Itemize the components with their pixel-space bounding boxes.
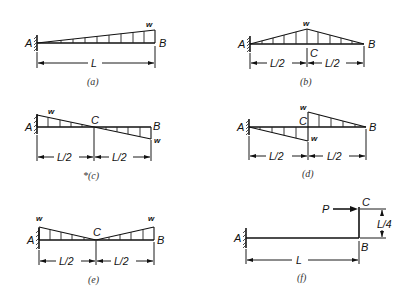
fixed-support-icon: [246, 119, 249, 135]
label-c: C: [362, 196, 370, 208]
label-c: C: [310, 47, 318, 59]
label-a: A: [24, 37, 32, 49]
distributed-load: [37, 30, 155, 43]
label-p: P: [322, 203, 330, 215]
fixed-support-icon: [243, 228, 246, 248]
label-b: B: [369, 121, 376, 133]
distributed-load: [250, 29, 364, 44]
caption: (d): [302, 168, 314, 180]
span-label-left: L/2: [59, 255, 74, 267]
beam-diagrams: A B w L (a): [0, 0, 414, 304]
span-label-right: L/2: [325, 57, 340, 69]
figure-f: P C B A L/4 L (f): [233, 196, 392, 284]
label-a: A: [233, 232, 241, 244]
figure-e: A B C w w L/2 L/2 (e): [26, 214, 164, 286]
dimension-line: [37, 128, 151, 161]
label-a: A: [237, 38, 245, 50]
label-w: w: [146, 20, 153, 29]
caption: (b): [300, 76, 312, 88]
span-label-right: L/2: [327, 150, 342, 162]
label-w-right: w: [148, 214, 155, 223]
span-label-left: L/2: [270, 57, 285, 69]
caption: (a): [87, 76, 99, 88]
label-c: C: [93, 226, 101, 238]
label-w-top: w: [300, 103, 307, 112]
fixed-support-icon: [247, 36, 250, 52]
label-w-bottom: w: [311, 134, 318, 143]
figure-d: A B C w w L/2 L/2 (d): [236, 103, 376, 180]
figure-a: A B w L (a): [24, 20, 166, 88]
arm-label: L/4: [377, 218, 392, 230]
dimension-line: [250, 46, 364, 69]
dimension-line: [246, 241, 359, 264]
label-c: C: [299, 115, 307, 127]
label-w-left: w: [48, 107, 55, 116]
dimension-line: [39, 241, 154, 265]
caption: *(c): [83, 170, 100, 182]
span-label-left: L/2: [57, 151, 72, 163]
fixed-support-icon: [34, 35, 37, 51]
label-w-left: w: [36, 214, 43, 223]
label-c: C: [91, 114, 99, 126]
label-b: B: [368, 38, 375, 50]
span-label-right: L/2: [114, 255, 129, 267]
caption: (e): [88, 274, 100, 286]
caption: (f): [297, 272, 307, 284]
label-b: B: [159, 37, 166, 49]
span-label-right: L/2: [112, 151, 127, 163]
span-label: L: [91, 57, 97, 69]
label-b: B: [361, 241, 368, 253]
label-a: A: [236, 121, 244, 133]
label-a: A: [24, 121, 32, 133]
label-b: B: [157, 234, 164, 246]
label-w-right: w: [154, 136, 161, 145]
force-arrow-icon: [333, 206, 358, 212]
span-label-left: L/2: [269, 150, 284, 162]
figure-b: A B C w L/2 L/2 (b): [237, 19, 375, 88]
label-w: w: [303, 19, 310, 28]
label-b: B: [153, 120, 160, 132]
figure-c: A B C w w L/2 L/2 *(c): [24, 107, 161, 182]
label-a: A: [26, 234, 34, 246]
span-label: L: [296, 254, 302, 266]
